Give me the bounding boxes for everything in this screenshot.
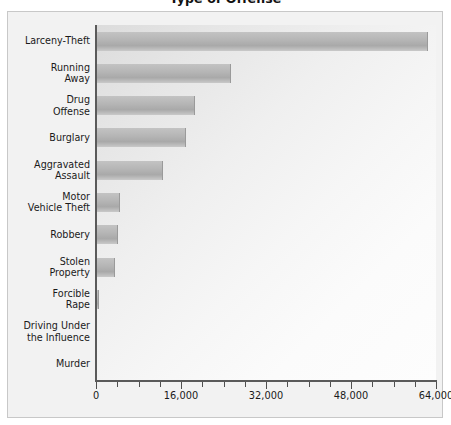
bar-row: Stolen Property	[97, 251, 115, 283]
bar-category-label: Murder	[0, 358, 90, 369]
x-axis-tick-major	[351, 382, 352, 389]
bar-row: Drug Offense	[97, 90, 195, 122]
x-axis-tick-major	[96, 382, 97, 389]
bar	[97, 32, 428, 51]
bar-category-label: Driving Under the Influence	[0, 320, 90, 343]
x-axis-tick-label: 0	[93, 390, 99, 401]
bar-row: Larceny-Theft	[97, 25, 428, 57]
x-axis-tick-minor	[139, 382, 140, 387]
x-axis-tick-major	[181, 382, 182, 389]
x-axis-tick-label: 32,000	[249, 390, 283, 401]
page-title: Type of Offense	[0, 0, 451, 6]
x-axis-tick-minor	[415, 382, 416, 387]
bar	[97, 193, 120, 212]
x-axis-tick-minor	[245, 382, 246, 387]
bar	[97, 128, 186, 147]
bar-category-label: Aggravated Assault	[0, 159, 90, 182]
x-axis-tick-minor	[372, 382, 373, 387]
bar-row: Motor Vehicle Theft	[97, 186, 120, 218]
x-axis-tick-major	[266, 382, 267, 389]
bar-row: Burglary	[97, 122, 186, 154]
x-axis-tick-minor	[160, 382, 161, 387]
bar-category-label: Robbery	[0, 229, 90, 240]
bar-category-label: Motor Vehicle Theft	[0, 191, 90, 214]
bar	[97, 64, 231, 83]
bar	[97, 322, 98, 341]
x-axis-tick-minor	[330, 382, 331, 387]
x-axis-tick-label: 16,000	[164, 390, 198, 401]
x-axis-tick-minor	[202, 382, 203, 387]
x-axis-tick-minor	[309, 382, 310, 387]
bar	[97, 225, 118, 244]
bar-row: Driving Under the Influence	[97, 315, 98, 347]
bar	[97, 161, 163, 180]
x-axis-tick-label: 64,000	[419, 390, 451, 401]
x-axis-tick-label: 48,000	[334, 390, 368, 401]
bar-category-label: Larceny-Theft	[0, 35, 90, 46]
bar-category-label: Forcible Rape	[0, 288, 90, 311]
bar	[97, 290, 99, 309]
bar	[97, 96, 195, 115]
x-axis-tick-major	[436, 382, 437, 389]
bar-row: Aggravated Assault	[97, 154, 163, 186]
bar-row: Running Away	[97, 57, 231, 89]
bar-row: Murder	[97, 348, 98, 380]
x-axis-tick-minor	[394, 382, 395, 387]
x-axis-tick-minor	[117, 382, 118, 387]
bar-category-label: Burglary	[0, 132, 90, 143]
bar-category-label: Drug Offense	[0, 94, 90, 117]
bar	[97, 258, 115, 277]
bar	[97, 354, 98, 373]
bar-row: Forcible Rape	[97, 283, 99, 315]
bar-category-label: Running Away	[0, 62, 90, 85]
x-axis-tick-minor	[287, 382, 288, 387]
x-axis-tick-minor	[224, 382, 225, 387]
bar-row: Robbery	[97, 219, 118, 251]
chart-figure: Type of Offense Larceny-TheftRunning Awa…	[0, 0, 451, 425]
bar-category-label: Stolen Property	[0, 256, 90, 279]
